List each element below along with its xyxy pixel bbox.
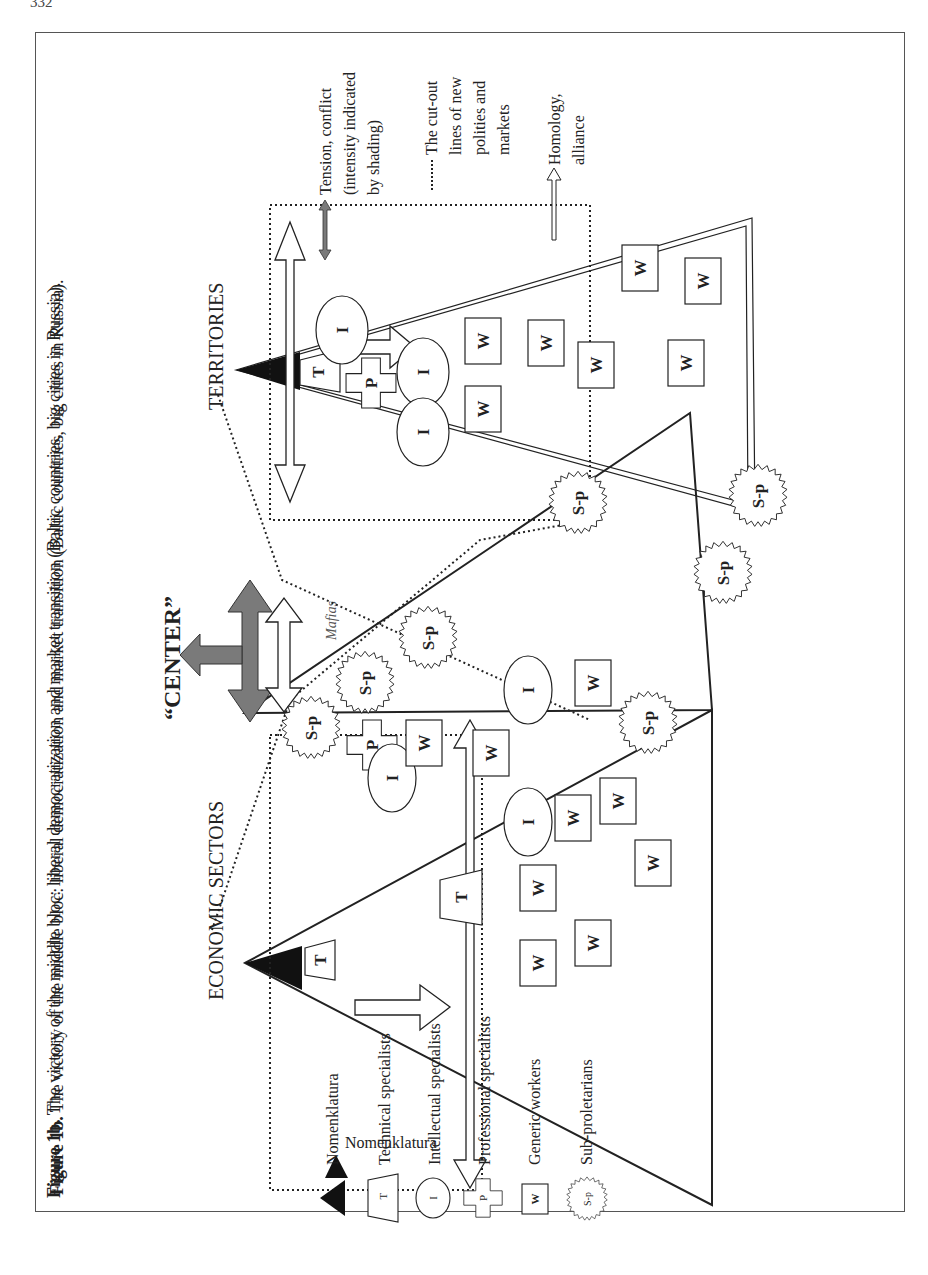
svg-text:W: W bbox=[694, 273, 713, 290]
svg-text:T: T bbox=[311, 954, 330, 966]
svg-text:I: I bbox=[427, 1196, 439, 1200]
nomenklatura-triangle-icon bbox=[320, 1180, 345, 1216]
svg-text:W: W bbox=[584, 675, 603, 692]
svg-text:P: P bbox=[362, 378, 381, 388]
alliance-arrow-icon bbox=[547, 168, 561, 240]
svg-text:I: I bbox=[519, 686, 538, 693]
legend-label-cutout-2: lines of new bbox=[447, 76, 464, 155]
svg-text:W: W bbox=[587, 357, 606, 374]
svg-text:T: T bbox=[377, 1192, 389, 1199]
svg-text:Figure 1b. The victory of the: Figure 1b. The victory of the middle blo… bbox=[44, 282, 65, 1198]
svg-text:W: W bbox=[564, 810, 583, 827]
svg-text:S-p: S-p bbox=[356, 671, 375, 696]
economic-shapes: S-p S-p S-p S-p T T P I I I W W W W W W bbox=[282, 606, 677, 986]
tension-arrow bbox=[180, 580, 272, 722]
svg-text:I: I bbox=[383, 774, 402, 781]
legend-label-intellectual: Intellectual specialists bbox=[426, 1023, 444, 1165]
legend-label-subproletarian: Sub-proletarians bbox=[578, 1059, 596, 1165]
svg-text:W: W bbox=[537, 335, 556, 352]
svg-text:W: W bbox=[609, 793, 628, 810]
svg-text:I: I bbox=[414, 428, 433, 435]
legend-right: Tension, conflict (intensity indicated b… bbox=[317, 72, 587, 260]
svg-text:W: W bbox=[644, 855, 663, 872]
caption-text: The victory of the middle bloc: liberal … bbox=[44, 282, 65, 1119]
svg-text:I: I bbox=[414, 368, 433, 375]
figure-diagram: Figure 1b. The victory of the middle blo… bbox=[0, 0, 928, 1275]
caption-label: Figure 1b. bbox=[44, 1119, 64, 1198]
svg-text:W: W bbox=[584, 935, 603, 952]
legend-label-tension-3: by shading) bbox=[365, 120, 383, 195]
svg-text:S-p: S-p bbox=[639, 711, 658, 736]
svg-text:W: W bbox=[529, 955, 548, 972]
svg-text:T: T bbox=[309, 366, 328, 378]
tension-arrow-icon bbox=[319, 200, 331, 260]
svg-text:S-p: S-p bbox=[582, 1192, 593, 1206]
label-territories: TERRITORIES bbox=[205, 283, 227, 410]
legend-label-nomenklatura: Nomenklatura bbox=[324, 1073, 341, 1165]
svg-text:S-p: S-p bbox=[569, 491, 588, 516]
svg-text:S-p: S-p bbox=[419, 626, 438, 651]
svg-text:I: I bbox=[333, 326, 352, 333]
svg-text:P: P bbox=[477, 1195, 489, 1201]
svg-text:W: W bbox=[482, 745, 501, 762]
svg-text:W: W bbox=[474, 333, 493, 350]
legend-label-tension-2: (intensity indicated bbox=[341, 72, 359, 195]
legend-label-technical: Technical specialists bbox=[376, 1033, 394, 1165]
svg-text:W: W bbox=[415, 735, 434, 752]
svg-text:W: W bbox=[474, 401, 493, 418]
legend-label-generic: Generic workers bbox=[526, 1059, 543, 1165]
svg-text:W: W bbox=[677, 355, 696, 372]
legend-left: Nomenklatura T Technical specialists I I… bbox=[320, 1016, 607, 1222]
legend-label-alliance-1: Homology, bbox=[546, 94, 564, 165]
svg-text:W: W bbox=[529, 880, 548, 897]
label-economic-sectors: ECONOMIC SECTORS bbox=[205, 801, 227, 1000]
svg-text:W: W bbox=[529, 1194, 541, 1205]
svg-text:S-p: S-p bbox=[749, 484, 768, 509]
legend-label-professional: Professional specialists bbox=[476, 1016, 494, 1165]
label-mafias: Mafias bbox=[324, 601, 339, 641]
svg-text:I: I bbox=[519, 818, 538, 825]
legend-label-cutout-1: The cut-out bbox=[423, 80, 440, 155]
legend-label-cutout-3: polities and bbox=[471, 81, 489, 155]
label-center: “CENTER” bbox=[159, 596, 185, 720]
legend-label-tension-1: Tension, conflict bbox=[317, 87, 334, 195]
svg-text:T: T bbox=[452, 891, 471, 903]
caption-group: Figure 1b. The victory of the middle blo… bbox=[44, 282, 65, 1198]
legend-label-alliance-2: alliance bbox=[570, 115, 587, 165]
svg-text:S-p: S-p bbox=[714, 561, 733, 586]
legend-label-cutout-4: markets bbox=[495, 104, 512, 155]
svg-text:W: W bbox=[631, 260, 650, 277]
svg-text:S-p: S-p bbox=[302, 716, 321, 741]
